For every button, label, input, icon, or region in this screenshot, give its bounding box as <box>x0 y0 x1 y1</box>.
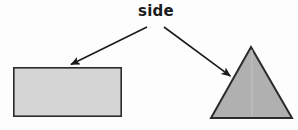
arrow-to-rectangle <box>71 27 147 65</box>
arrow-to-triangle <box>164 27 230 76</box>
diagram-canvas: side <box>0 0 298 130</box>
geometry-diagram: side <box>0 0 298 130</box>
side-label: side <box>138 2 174 20</box>
rectangle-shape <box>14 68 121 116</box>
